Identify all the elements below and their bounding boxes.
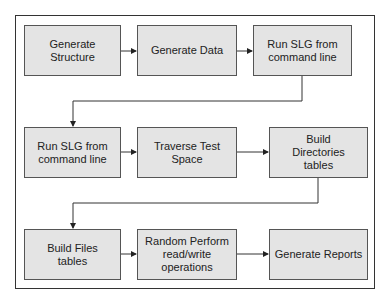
node-label: Traverse Test Space (140, 140, 234, 166)
node-random-perform-rw: Random Perform read/write operations (137, 229, 237, 280)
node-build-files-tables: Build Files tables (24, 229, 121, 280)
node-generate-structure: Generate Structure (24, 25, 121, 76)
node-traverse-test-space: Traverse Test Space (137, 127, 237, 178)
node-label: Run SLG from command line (267, 38, 339, 64)
node-label: Random Perform read/write operations (140, 235, 234, 274)
node-run-slg-1: Run SLG from command line (253, 25, 352, 76)
node-run-slg-2: Run SLG from command line (24, 127, 121, 178)
node-label: Generate Structure (27, 38, 118, 64)
node-label: Generate Data (151, 44, 223, 57)
node-label: Generate Reports (275, 248, 362, 261)
node-build-directories-tables: Build Directories tables (269, 127, 368, 178)
node-generate-data: Generate Data (137, 25, 237, 76)
node-label: Run SLG from command line (37, 140, 109, 166)
node-generate-reports: Generate Reports (269, 229, 368, 280)
node-label: Build Files tables (43, 242, 103, 268)
node-label: Build Directories tables (279, 133, 359, 172)
